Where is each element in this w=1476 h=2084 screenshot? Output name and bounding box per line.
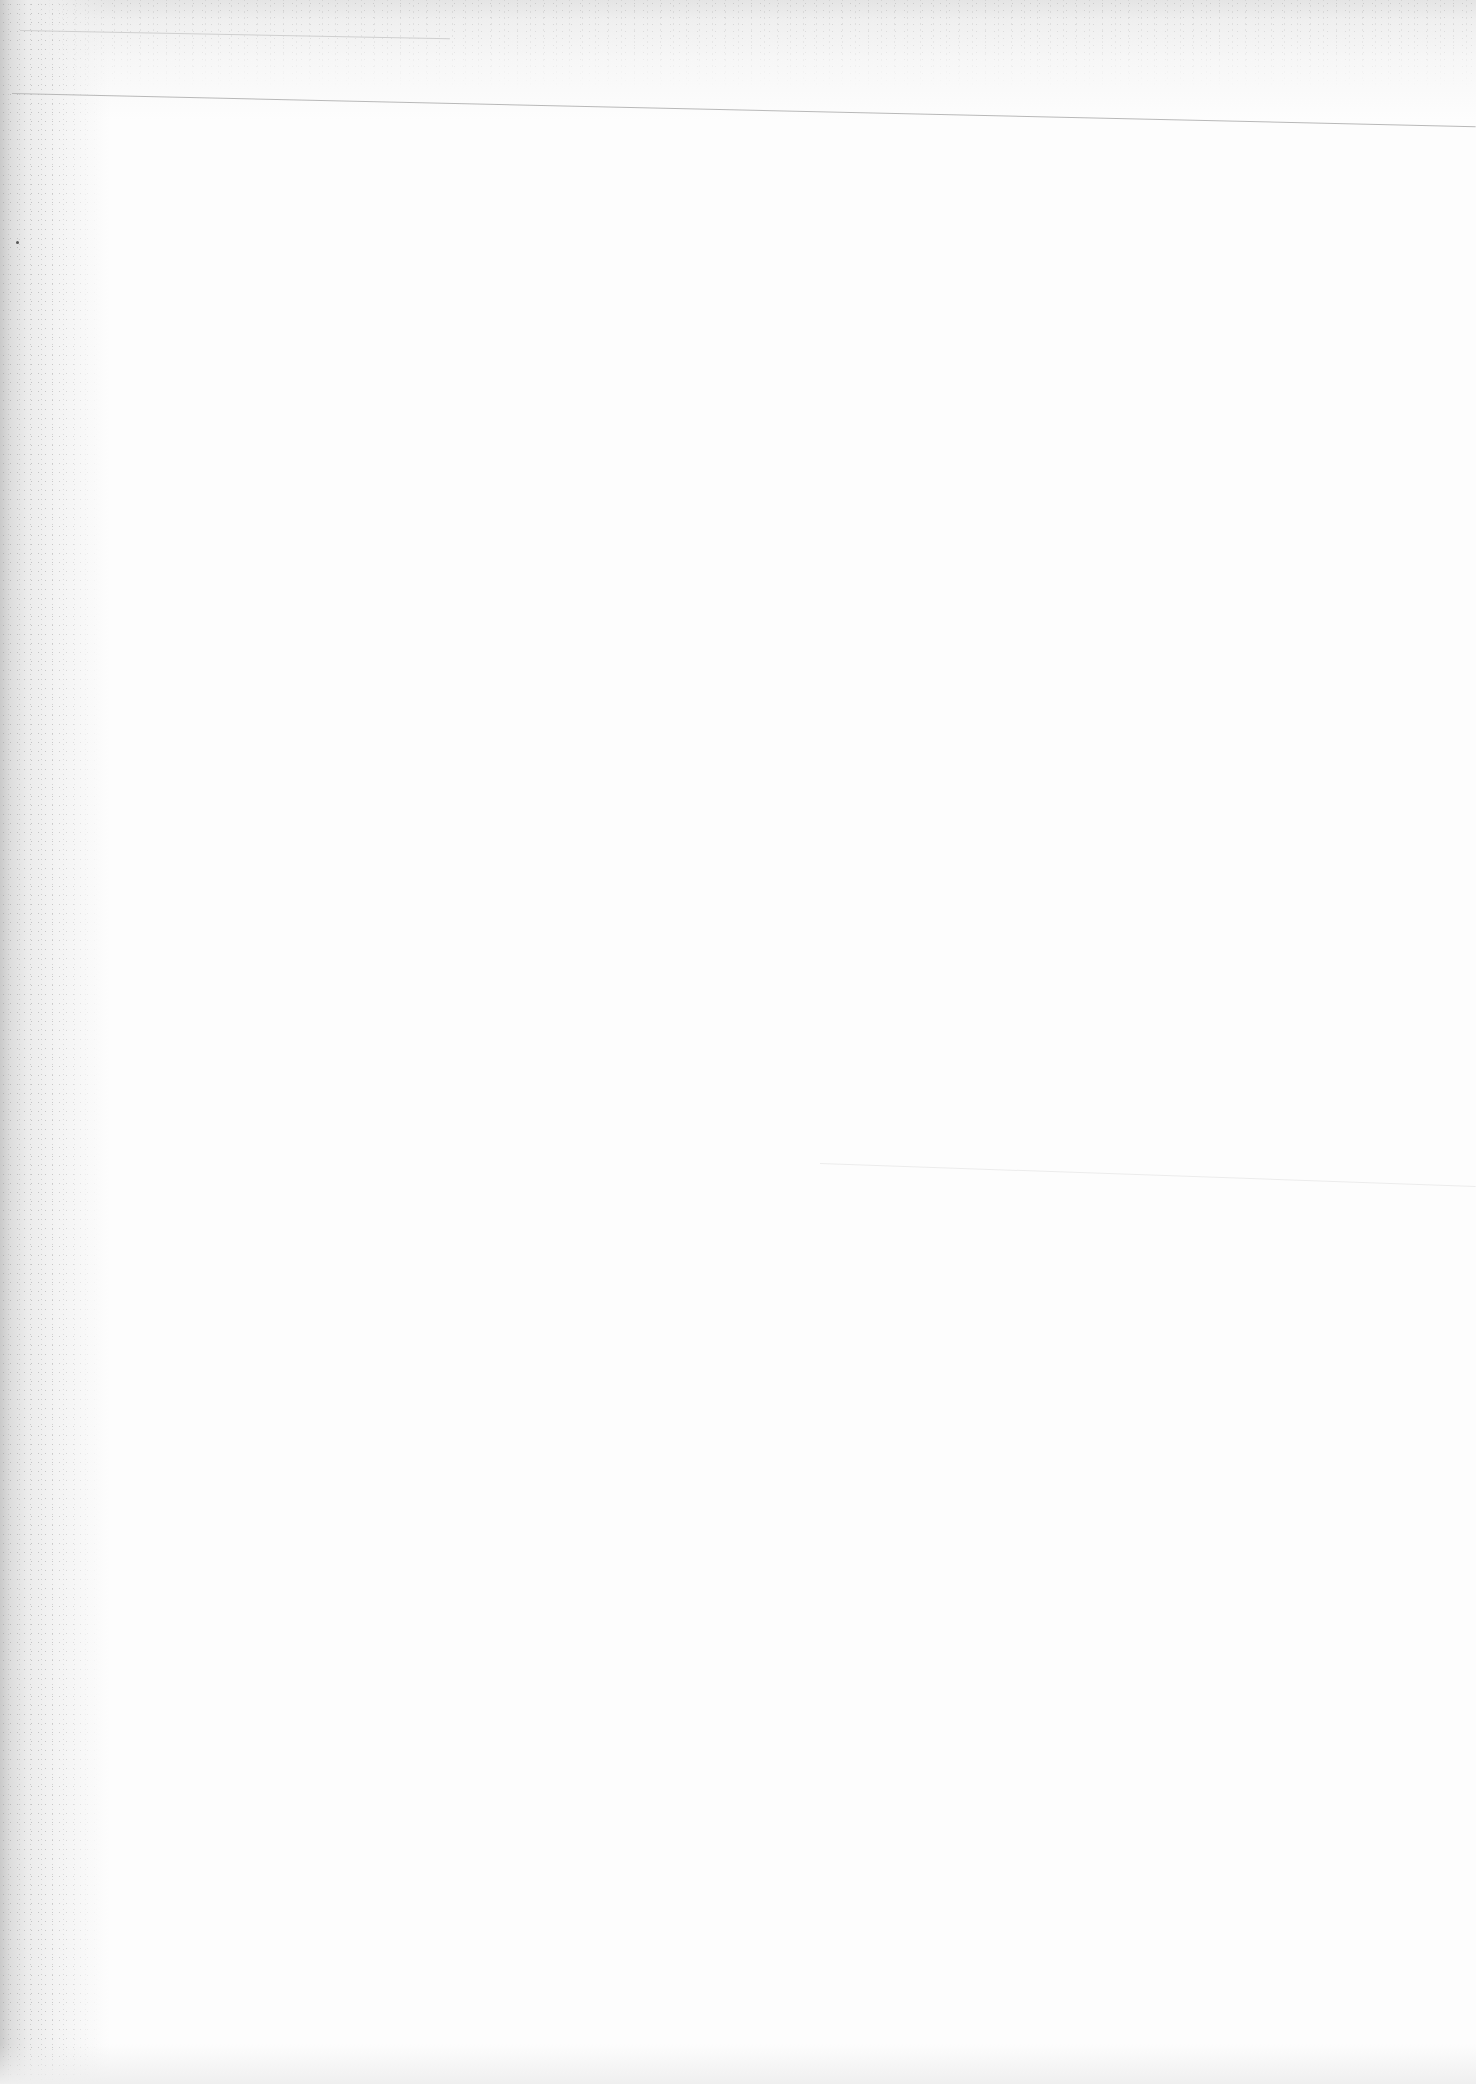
scan-left-edge-noise	[0, 0, 100, 2084]
scan-top-noise	[0, 0, 1476, 90]
scan-speck	[16, 241, 19, 244]
blank-scanned-page	[0, 0, 1476, 2084]
scan-bottom-shadow	[0, 2044, 1476, 2084]
faint-scan-line-middle	[820, 1163, 1476, 1187]
